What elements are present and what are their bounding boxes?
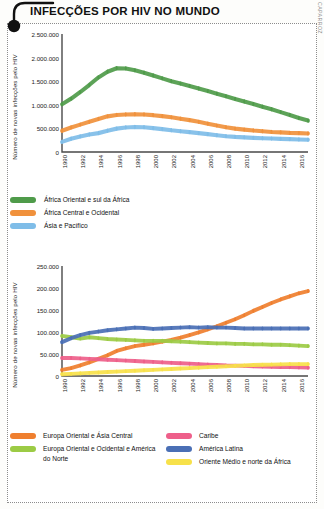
series-marker [298, 344, 300, 348]
series-marker [161, 114, 163, 118]
y-axis-tick: 200.000 [37, 285, 59, 292]
legend-item[interactable]: América Latina [166, 444, 314, 454]
x-axis-tick: 2014 [281, 155, 287, 168]
series-marker [280, 362, 282, 366]
series-marker [280, 297, 282, 301]
series-marker [134, 359, 136, 363]
series-marker [252, 363, 254, 367]
series-marker [125, 369, 127, 373]
series-marker [243, 135, 245, 139]
series-marker [116, 337, 118, 341]
series-marker [234, 135, 236, 139]
series-marker [289, 113, 291, 117]
series-marker [252, 326, 254, 330]
series-marker [107, 370, 109, 374]
x-axis-tick: 1990 [62, 379, 68, 392]
series-marker [216, 92, 218, 96]
series-marker [170, 339, 172, 343]
series-marker [298, 291, 300, 295]
series-marker [116, 358, 118, 362]
series-marker [198, 120, 200, 124]
legend-item[interactable]: Europa Oriental e Ásia Central [10, 431, 158, 441]
y-axis-tick: 2.500.000 [31, 31, 59, 38]
series-marker [61, 372, 63, 376]
y-axis-tick: 1.500.000 [31, 78, 59, 85]
series-marker [88, 331, 90, 335]
series-marker [261, 129, 263, 133]
x-axis-tick: 1996 [117, 155, 123, 168]
series-marker [216, 365, 218, 369]
series-marker [216, 123, 218, 127]
chart1-svg [62, 34, 308, 152]
series-marker [225, 321, 227, 325]
series-marker [61, 140, 63, 144]
series-marker [88, 335, 90, 339]
series-marker [225, 125, 227, 129]
chart1-legend: África Oriental e sul da África África C… [10, 195, 314, 234]
series-marker [134, 338, 136, 342]
series-marker [70, 356, 72, 360]
series-marker [261, 136, 263, 140]
series-marker [189, 118, 191, 122]
series-marker [143, 339, 145, 343]
series-marker [88, 371, 90, 375]
series-marker [243, 363, 245, 367]
chart1-y-axis-label: Número de novas infecções pelo HIV [8, 32, 20, 182]
x-axis-tick: 1994 [98, 155, 104, 168]
series-marker [189, 366, 191, 370]
series-marker [198, 86, 200, 90]
series-marker [61, 368, 63, 372]
series-marker [143, 112, 145, 116]
legend-swatch-blue-dark [166, 446, 192, 452]
chart2-plot-area: 050.000100.000150.000200.000250.00019901… [62, 266, 308, 376]
legend-item[interactable]: Oriente Médio e norte da África [166, 457, 314, 467]
legend-swatch-orange [10, 433, 36, 439]
series-marker [189, 333, 191, 337]
series-marker [289, 343, 291, 347]
series-marker [107, 129, 109, 133]
y-axis-tick: 0 [56, 373, 59, 380]
series-marker [280, 137, 282, 141]
chart2-legend-column-left: Europa Oriental e Ásia Central Europa Or… [10, 431, 158, 470]
series-marker [125, 112, 127, 116]
series-marker [79, 90, 81, 94]
series-marker [134, 369, 136, 373]
series-marker [280, 343, 282, 347]
legend-label: África Central e Ocidental [44, 208, 119, 218]
series-marker [88, 132, 90, 136]
series-marker [179, 326, 181, 330]
series-marker [152, 360, 154, 364]
series-marker [243, 342, 245, 346]
series-marker [216, 326, 218, 330]
legend-item[interactable]: Caribe [166, 431, 314, 441]
series-marker [107, 353, 109, 357]
series-marker [79, 122, 81, 126]
series-marker [116, 66, 118, 70]
series-marker [289, 131, 291, 135]
x-axis-tick: 2012 [262, 155, 268, 168]
series-marker [107, 358, 109, 362]
series-marker [207, 341, 209, 345]
series-marker [170, 79, 172, 83]
legend-item[interactable]: Ásia e Pacífico [10, 221, 314, 231]
series-marker [207, 132, 209, 136]
series-marker [107, 70, 109, 74]
series-marker [189, 362, 191, 366]
legend-item[interactable]: África Oriental e sul da África [10, 195, 314, 205]
legend-item[interactable]: Europa Oriental e Ocidental e América do… [10, 444, 158, 463]
series-marker [289, 326, 291, 330]
series-marker [134, 68, 136, 72]
series-marker [243, 127, 245, 131]
series-marker [225, 94, 227, 98]
series-marker [161, 367, 163, 371]
series-marker [79, 134, 81, 138]
x-axis-tick: 2012 [262, 379, 268, 392]
series-marker [170, 326, 172, 330]
series-marker [179, 336, 181, 340]
legend-item[interactable]: África Central e Ocidental [10, 208, 314, 218]
series-marker [198, 362, 200, 366]
series-marker [88, 357, 90, 361]
series-marker [170, 367, 172, 371]
series-marker [70, 366, 72, 370]
legend-swatch-green [10, 197, 36, 203]
